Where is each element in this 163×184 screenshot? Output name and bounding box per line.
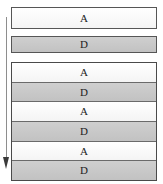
stack-row[interactable]: D — [12, 122, 156, 142]
stack-row[interactable]: D — [12, 83, 156, 103]
stack-row[interactable]: A — [12, 142, 156, 162]
node-label: D — [80, 87, 88, 98]
node-box-d-top[interactable]: D — [11, 36, 157, 53]
node-label: A — [80, 13, 88, 24]
diagram-canvas: A D A D A D A D — [0, 0, 163, 184]
arrow-head-icon — [3, 157, 9, 169]
node-label: A — [80, 67, 88, 78]
stack-row[interactable]: A — [12, 63, 156, 83]
stack-row[interactable]: A — [12, 102, 156, 122]
node-label: D — [80, 126, 88, 137]
node-group-stack: A D A D A D — [11, 62, 157, 181]
stack-row[interactable]: D — [12, 161, 156, 180]
node-label: D — [80, 165, 88, 176]
arrow-shaft — [6, 17, 7, 163]
node-box-a-top[interactable]: A — [11, 7, 157, 29]
node-label: A — [80, 146, 88, 157]
node-label: A — [80, 106, 88, 117]
node-label: D — [80, 39, 88, 50]
